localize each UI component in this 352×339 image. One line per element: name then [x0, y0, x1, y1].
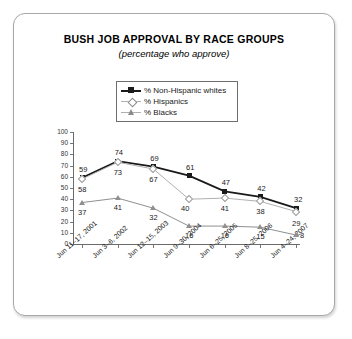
data-point-label: 16 — [221, 231, 229, 240]
data-point-marker — [115, 195, 121, 200]
y-axis-tick-mark — [70, 199, 73, 200]
plot-area: 0102030405060708090100Jun 11–17, 2001Jun… — [14, 14, 336, 317]
y-axis-tick-label: 20 — [52, 218, 68, 225]
data-point-label: 8 — [300, 231, 304, 240]
data-point-marker — [187, 173, 192, 178]
data-point-label: 67 — [149, 175, 157, 184]
y-axis-tick-mark — [70, 132, 73, 133]
data-point-label: 32 — [294, 195, 302, 204]
y-axis-tick-mark — [70, 166, 73, 167]
y-axis-tick-label: 100 — [52, 128, 68, 135]
y-axis-tick-mark — [70, 154, 73, 155]
data-point-label: 42 — [257, 184, 265, 193]
chart-card: BUSH JOB APPROVAL BY RACE GROUPS (percen… — [13, 13, 335, 316]
data-point-label: 74 — [115, 148, 123, 157]
data-point-label: 59 — [79, 165, 87, 174]
y-axis-tick-label: 50 — [52, 184, 68, 191]
y-axis-tick-mark — [70, 143, 73, 144]
data-point-marker — [79, 200, 85, 205]
y-axis-tick-mark — [70, 188, 73, 189]
y-axis-tick-mark — [70, 222, 73, 223]
y-axis-tick-mark — [70, 233, 73, 234]
data-point-label: 73 — [114, 168, 122, 177]
data-point-marker — [257, 224, 263, 229]
x-axis-tick-mark — [118, 245, 119, 248]
x-axis-tick-mark — [153, 245, 154, 248]
data-point-label: 32 — [149, 213, 157, 222]
y-axis-tick-mark — [70, 210, 73, 211]
x-axis-tick-mark — [225, 245, 226, 248]
y-axis-tick-label: 80 — [52, 150, 68, 157]
data-point-label: 41 — [114, 203, 122, 212]
x-axis-tick-mark — [82, 245, 83, 248]
data-point-label: 37 — [78, 208, 86, 217]
data-point-label: 47 — [222, 178, 230, 187]
data-point-label: 41 — [221, 204, 229, 213]
y-axis-tick-label: 60 — [52, 173, 68, 180]
data-point-label: 16 — [185, 231, 193, 240]
y-axis-tick-mark — [70, 177, 73, 178]
data-point-label: 61 — [186, 163, 194, 172]
data-point-marker — [150, 205, 156, 210]
y-axis-tick-label: 90 — [52, 139, 68, 146]
data-point-marker — [222, 223, 228, 228]
x-axis-tick-mark — [260, 245, 261, 248]
data-point-label: 58 — [78, 185, 86, 194]
data-point-marker — [293, 232, 299, 237]
data-point-label: 40 — [181, 204, 189, 213]
y-axis-tick-label: 10 — [52, 229, 68, 236]
x-axis-tick-mark — [189, 245, 190, 248]
data-point-label: 29 — [292, 219, 300, 228]
y-axis-tick-label: 40 — [52, 195, 68, 202]
y-axis-tick-label: 70 — [52, 162, 68, 169]
data-point-label: 38 — [256, 207, 264, 216]
data-point-marker — [186, 223, 192, 228]
y-axis-tick-label: 30 — [52, 206, 68, 213]
x-axis-tick-mark — [296, 245, 297, 248]
data-point-label: 69 — [150, 154, 158, 163]
data-point-label: 15 — [256, 232, 264, 241]
